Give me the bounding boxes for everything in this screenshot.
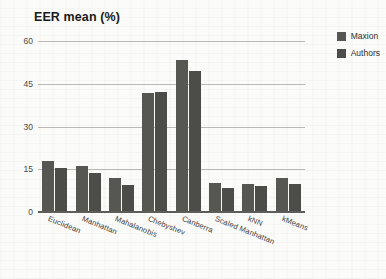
y-axis-tick-label: 30	[24, 122, 33, 132]
y-axis-tick-label: 60	[24, 36, 33, 46]
bar-group	[42, 41, 67, 212]
chart-title: EER mean (%)	[34, 10, 120, 24]
legend-item: Authors	[337, 48, 380, 58]
bar	[176, 60, 188, 212]
legend-label: Maxion	[351, 31, 378, 41]
plot-area: 015304560	[38, 41, 305, 212]
chart-legend: MaxionAuthors	[337, 31, 380, 58]
y-axis-tick-label: 0	[28, 207, 33, 217]
y-axis-tick-label: 45	[24, 79, 33, 89]
legend-swatch	[337, 32, 346, 41]
bar-group	[76, 41, 101, 212]
bar	[109, 178, 121, 212]
bar	[255, 186, 267, 212]
bar-group	[209, 41, 234, 212]
bar	[55, 168, 67, 212]
bar	[122, 185, 134, 212]
bar	[142, 93, 154, 212]
x-axis-tick-label: kMeans	[280, 214, 309, 233]
bar	[222, 188, 234, 212]
bar-group	[242, 41, 267, 212]
bar	[276, 178, 288, 212]
bar	[242, 184, 254, 212]
eer-mean-bar-chart: EER mean (%) 015304560 EuclideanManhatta…	[0, 0, 386, 279]
bar	[289, 184, 301, 213]
x-axis-tick-label: Euclidean	[46, 214, 82, 235]
bar	[76, 166, 88, 212]
bar	[42, 161, 54, 212]
bar	[209, 183, 221, 212]
legend-label: Authors	[351, 48, 380, 58]
legend-item: Maxion	[337, 31, 380, 41]
legend-swatch	[337, 49, 346, 58]
x-axis-tick-label: Manhattan	[80, 214, 118, 236]
bar-group	[276, 41, 301, 212]
bar	[155, 92, 167, 212]
bar-group	[109, 41, 134, 212]
x-axis-baseline	[38, 211, 305, 213]
y-axis-tick-label: 15	[24, 164, 33, 174]
x-axis-tick-label: Scaled Manhattan	[213, 214, 275, 246]
bars-layer	[38, 41, 305, 212]
x-axis-labels: EuclideanManhattanMahalanobisChebyshevCa…	[38, 214, 305, 274]
bar-group	[176, 41, 201, 212]
bar-group	[142, 41, 167, 212]
bar	[89, 173, 101, 212]
bar	[189, 71, 201, 212]
